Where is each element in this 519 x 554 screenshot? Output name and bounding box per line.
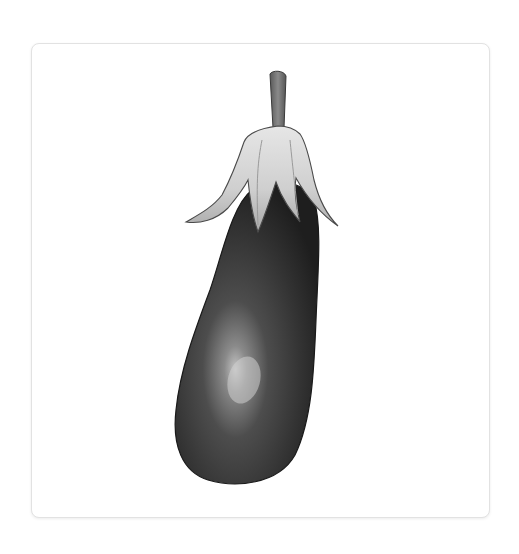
eggplant-illustration [0, 0, 519, 554]
stem [270, 71, 286, 128]
eggplant-body [175, 183, 319, 484]
